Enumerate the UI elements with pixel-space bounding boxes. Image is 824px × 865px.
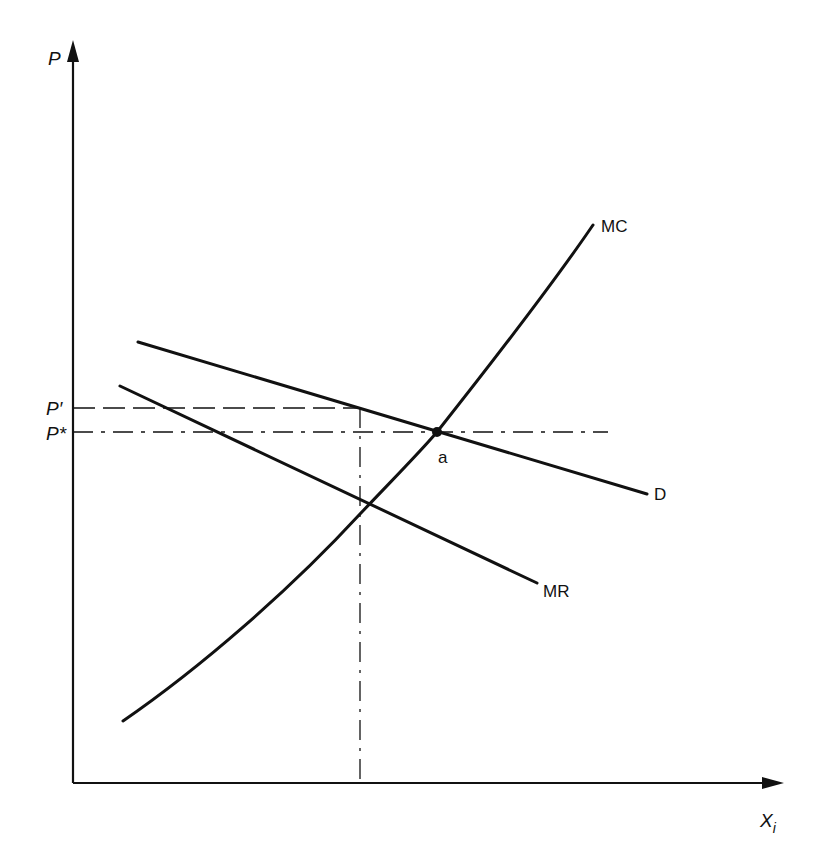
equilibrium-point-a	[432, 427, 442, 437]
p-prime-label: P′	[46, 398, 64, 419]
axes	[67, 40, 784, 789]
demand-curve	[138, 342, 647, 494]
d-curve-label: D	[654, 485, 666, 504]
x-axis-label: Xi	[759, 810, 777, 836]
economics-diagram: P Xi P′ P* MC D MR a	[0, 0, 824, 865]
guide-lines	[73, 408, 608, 783]
p-star-label: P*	[46, 423, 67, 444]
y-axis-label: P	[48, 48, 61, 69]
marginal-revenue-curve	[120, 386, 537, 583]
x-axis-subscript: i	[773, 820, 777, 836]
marginal-cost-curve	[123, 225, 593, 721]
x-axis-arrow-icon	[762, 777, 784, 789]
mc-curve-label: MC	[601, 217, 627, 236]
curves	[120, 225, 647, 721]
mr-curve-label: MR	[543, 582, 569, 601]
point-a-label: a	[438, 448, 448, 467]
y-axis-arrow-icon	[67, 40, 79, 62]
